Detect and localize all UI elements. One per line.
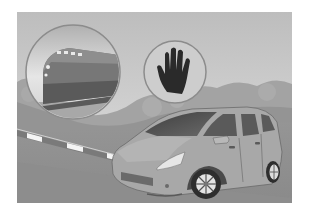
illustration-frame: [17, 12, 292, 203]
stop-hand-sign: [144, 41, 206, 103]
rear-wheel: [266, 161, 280, 183]
railroad-crossing-illustration: [17, 12, 292, 203]
